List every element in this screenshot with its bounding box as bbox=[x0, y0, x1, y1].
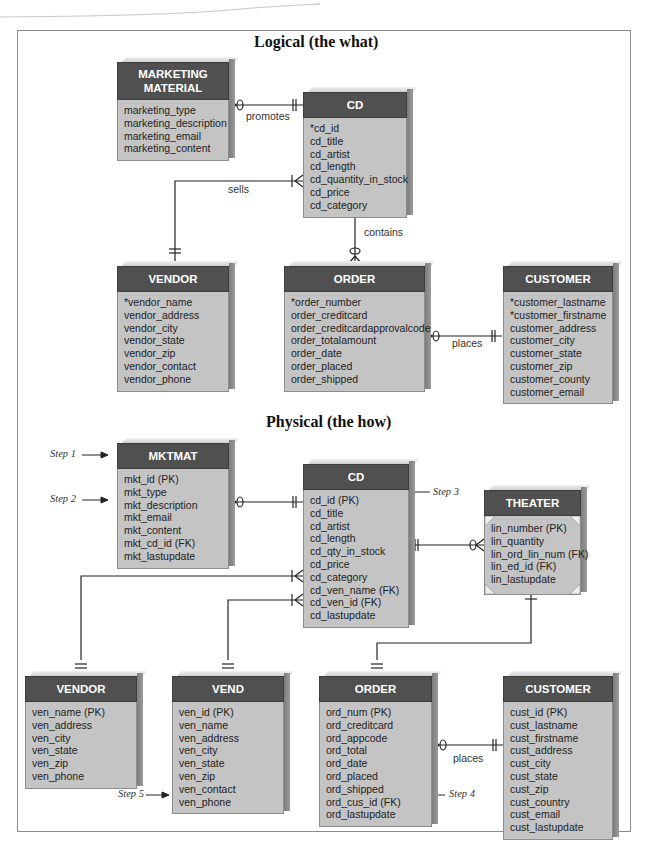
attribute: ord_lastupdate bbox=[326, 808, 425, 821]
attribute: cd_id (PK) bbox=[310, 494, 402, 507]
attribute: ord_cus_id (FK) bbox=[326, 796, 425, 809]
attribute: ven_state bbox=[32, 744, 130, 757]
attribute: cd_ven_id (FK) bbox=[310, 596, 402, 609]
entity-cd-physical[interactable]: CD cd_id (PK) cd_title cd_artist cd_leng… bbox=[303, 464, 409, 628]
attribute: lin_ed_id (FK) bbox=[491, 560, 574, 573]
attribute: customer_county bbox=[510, 373, 606, 386]
attribute: ven_name bbox=[179, 719, 277, 732]
relationship-label-places: places bbox=[452, 337, 482, 349]
entity-header: ORDER bbox=[284, 266, 425, 292]
attribute: cust_country bbox=[510, 796, 606, 809]
attribute: cust_city bbox=[510, 757, 606, 770]
attribute: cd_category bbox=[310, 199, 400, 212]
attribute: order_shipped bbox=[291, 373, 418, 386]
attribute: cd_title bbox=[310, 507, 402, 520]
attribute: mkt_description bbox=[124, 499, 222, 512]
attribute: ven_city bbox=[32, 732, 130, 745]
attribute: ven_phone bbox=[32, 770, 130, 783]
attribute: ven_address bbox=[32, 719, 130, 732]
entity-header: CD bbox=[303, 92, 407, 118]
step-2-annotation: Step 2 bbox=[50, 493, 76, 504]
attribute: vendor_zip bbox=[124, 347, 222, 360]
attribute: mkt_email bbox=[124, 511, 222, 524]
attribute: ven_name (PK) bbox=[32, 706, 130, 719]
attribute: lin_lastupdate bbox=[491, 573, 574, 586]
attribute: mkt_id (PK) bbox=[124, 473, 222, 486]
entity-order-physical[interactable]: ORDER ord_num (PK) ord_creditcard ord_ap… bbox=[319, 676, 432, 827]
attribute: cd_ven_name (FK) bbox=[310, 584, 402, 597]
attribute: cd_price bbox=[310, 558, 402, 571]
relationship-label-contains: contains bbox=[364, 226, 403, 238]
attribute: cd_category bbox=[310, 571, 402, 584]
entity-vendor-physical[interactable]: VENDOR ven_name (PK) ven_address ven_cit… bbox=[25, 676, 137, 789]
attribute: customer_address bbox=[510, 322, 606, 335]
attribute: ord_shipped bbox=[326, 783, 425, 796]
attribute: mkt_type bbox=[124, 486, 222, 499]
entity-vendor-logical[interactable]: VENDOR *vendor_name vendor_address vendo… bbox=[117, 266, 229, 392]
attribute: mkt_cd_id (FK) bbox=[124, 537, 222, 550]
attribute: *order_number bbox=[291, 296, 418, 309]
entity-header: MKTMAT bbox=[117, 443, 229, 469]
attribute: vendor_city bbox=[124, 322, 222, 335]
attribute: vendor_phone bbox=[124, 373, 222, 386]
attribute: cd_price bbox=[310, 186, 400, 199]
attribute: ven_contact bbox=[179, 783, 277, 796]
relationship-label-sells: sells bbox=[228, 183, 249, 195]
entity-header: VENDOR bbox=[117, 266, 229, 292]
attribute: *customer_firstname bbox=[510, 309, 606, 322]
entity-mktmat-physical[interactable]: MKTMAT mkt_id (PK) mkt_type mkt_descript… bbox=[117, 443, 229, 569]
attribute: ven_address bbox=[179, 732, 277, 745]
attribute: cd_length bbox=[310, 160, 400, 173]
relationship-label-places: places bbox=[453, 752, 483, 764]
entity-vend-physical[interactable]: VEND ven_id (PK) ven_name ven_address ve… bbox=[172, 676, 284, 814]
entity-marketing-material-logical[interactable]: MARKETING MATERIAL marketing_type market… bbox=[117, 62, 229, 161]
attribute: cust_address bbox=[510, 744, 606, 757]
attribute: marketing_description bbox=[124, 117, 222, 130]
attribute: cd_quantity_in_stock bbox=[310, 173, 400, 186]
attribute: vendor_address bbox=[124, 309, 222, 322]
corner-notch-icon bbox=[570, 516, 580, 526]
entity-theater-physical[interactable]: THEATER lin_number (PK) lin_quantity lin… bbox=[484, 490, 581, 595]
attribute: cust_firstname bbox=[510, 732, 606, 745]
attribute: order_placed bbox=[291, 360, 418, 373]
corner-notch-icon bbox=[570, 584, 580, 594]
attribute: order_creditcardapprovalcode bbox=[291, 322, 418, 335]
step-3-annotation: Step 3 bbox=[433, 486, 459, 497]
entity-customer-logical[interactable]: CUSTOMER *customer_lastname *customer_fi… bbox=[503, 266, 613, 404]
attribute: cd_title bbox=[310, 135, 400, 148]
attribute: cd_artist bbox=[310, 148, 400, 161]
step-5-annotation: Step 5 bbox=[118, 788, 144, 799]
attribute: mkt_lastupdate bbox=[124, 550, 222, 563]
entity-header: VENDOR bbox=[25, 676, 137, 702]
step-1-annotation: Step 1 bbox=[50, 448, 76, 459]
attribute: ord_num (PK) bbox=[326, 706, 425, 719]
entity-cd-logical[interactable]: CD *cd_id cd_title cd_artist cd_length c… bbox=[303, 92, 407, 218]
attribute: ven_zip bbox=[179, 770, 277, 783]
attribute: ord_date bbox=[326, 757, 425, 770]
step-4-annotation: Step 4 bbox=[449, 788, 475, 799]
attribute: ord_total bbox=[326, 744, 425, 757]
entity-header: CD bbox=[303, 464, 409, 490]
attribute: lin_number (PK) bbox=[491, 522, 574, 535]
attribute: marketing_type bbox=[124, 104, 222, 117]
entity-header: THEATER bbox=[484, 490, 581, 516]
entity-order-logical[interactable]: ORDER *order_number order_creditcard ord… bbox=[284, 266, 425, 392]
attribute: marketing_email bbox=[124, 130, 222, 143]
relationship-label-promotes: promotes bbox=[246, 110, 290, 122]
attribute: cust_email bbox=[510, 808, 606, 821]
attribute: customer_email bbox=[510, 386, 606, 399]
attribute: lin_quantity bbox=[491, 535, 574, 548]
attribute: order_totalamount bbox=[291, 334, 418, 347]
entity-header: MARKETING MATERIAL bbox=[117, 62, 229, 100]
attribute: vendor_state bbox=[124, 334, 222, 347]
attribute: marketing_content bbox=[124, 142, 222, 155]
entity-header: VEND bbox=[172, 676, 284, 702]
entity-customer-physical[interactable]: CUSTOMER cust_id (PK) cust_lastname cust… bbox=[503, 676, 613, 840]
entity-header: ORDER bbox=[319, 676, 432, 702]
attribute: ven_phone bbox=[179, 796, 277, 809]
attribute: cust_lastupdate bbox=[510, 821, 606, 834]
attribute: cd_qty_in_stock bbox=[310, 545, 402, 558]
attribute: *customer_lastname bbox=[510, 296, 606, 309]
attribute: ord_placed bbox=[326, 770, 425, 783]
attribute: ord_creditcard bbox=[326, 719, 425, 732]
